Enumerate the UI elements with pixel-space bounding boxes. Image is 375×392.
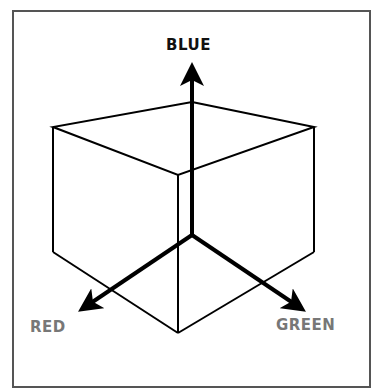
green-axis-label: GREEN	[276, 316, 335, 334]
cube-top-face	[53, 102, 314, 175]
color-axes	[88, 74, 296, 305]
cube-edges	[53, 102, 314, 333]
red-axis-label: RED	[30, 318, 66, 336]
red-axis-arrow	[88, 235, 192, 305]
blue-axis-label: BLUE	[166, 36, 211, 54]
